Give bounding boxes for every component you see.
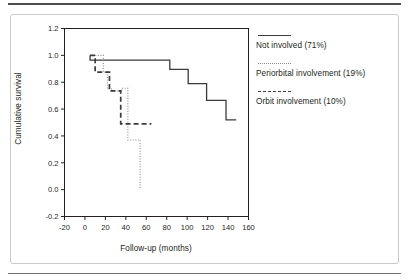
x-tick-label: 60 bbox=[142, 223, 150, 232]
y-tick-label: 1.2 bbox=[48, 24, 59, 33]
legend-swatch-dashed-icon bbox=[258, 88, 291, 95]
y-tick-label: -0.2 bbox=[45, 212, 58, 221]
curves-group bbox=[90, 55, 236, 189]
y-tick-label: 0.6 bbox=[48, 105, 59, 114]
series-line-solid bbox=[90, 55, 236, 119]
y-axis-title: Cumulative survival bbox=[14, 59, 23, 159]
y-tick-label: 0.8 bbox=[48, 78, 59, 87]
x-tick-label: 100 bbox=[181, 223, 194, 232]
legend-label-periorbital: Periorbital involvement (19%) bbox=[256, 69, 404, 79]
legend-label-not-involved: Not involved (71%) bbox=[256, 41, 404, 51]
x-tick-label: 40 bbox=[122, 223, 130, 232]
legend-item-orbit: Orbit involvement (10%) bbox=[256, 88, 404, 107]
x-tick-label: 120 bbox=[201, 223, 214, 232]
plot-frame bbox=[65, 29, 249, 217]
chart-legend: Not involved (71%) Periorbital involveme… bbox=[256, 32, 404, 116]
y-tick-label: 0.2 bbox=[48, 159, 59, 168]
legend-swatch-dotted-icon bbox=[258, 60, 291, 67]
x-tick-label: 140 bbox=[222, 223, 235, 232]
legend-swatch-solid-icon bbox=[258, 32, 291, 39]
x-tick-label: 20 bbox=[101, 223, 109, 232]
y-tick-label: 0.0 bbox=[48, 185, 59, 194]
y-tick-label: 0.4 bbox=[48, 132, 59, 141]
y-tick-label: 1.0 bbox=[48, 51, 59, 60]
axes-group: -20020406080100120140160-0.20.00.20.40.6… bbox=[45, 24, 254, 231]
x-tick-label: 80 bbox=[162, 223, 170, 232]
legend-label-orbit: Orbit involvement (10%) bbox=[256, 97, 404, 107]
x-axis-title: Follow-up (months) bbox=[64, 244, 248, 253]
figure-container: -20020406080100120140160-0.20.00.20.40.6… bbox=[0, 0, 409, 280]
x-tick-label: 160 bbox=[242, 223, 255, 232]
x-tick-label: -20 bbox=[59, 223, 70, 232]
legend-item-periorbital: Periorbital involvement (19%) bbox=[256, 60, 404, 79]
x-tick-label: 0 bbox=[83, 223, 87, 232]
series-line-dotted bbox=[90, 55, 140, 189]
legend-item-not-involved: Not involved (71%) bbox=[256, 32, 404, 51]
series-line-dashed bbox=[90, 55, 151, 123]
